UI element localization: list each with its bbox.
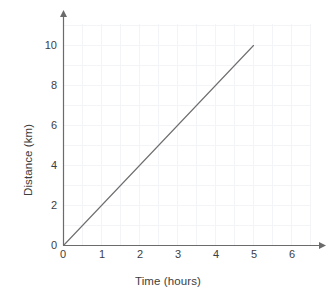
y-axis-title: Distance (km): [22, 124, 34, 196]
xtick-label-3: 3: [168, 248, 188, 260]
x-axis-title: Time (hours): [0, 275, 336, 287]
xtick-label-2: 2: [130, 248, 150, 260]
xtick-label-4: 4: [206, 248, 226, 260]
ytick-label-8: 8: [35, 79, 57, 91]
ytick-label-4: 4: [35, 159, 57, 171]
xtick-label-1: 1: [92, 248, 112, 260]
grid-lines: [64, 24, 312, 246]
ytick-label-2: 2: [35, 199, 57, 211]
xtick-label-6: 6: [282, 248, 302, 260]
ytick-label-0: 0: [35, 239, 57, 251]
distance-time-chart: 0 1 2 3 4 5 6 0 2 4 6 8 10 Distance (km)…: [0, 0, 336, 302]
ytick-label-10: 10: [35, 39, 57, 51]
xtick-label-5: 5: [244, 248, 264, 260]
ytick-label-6: 6: [35, 119, 57, 131]
